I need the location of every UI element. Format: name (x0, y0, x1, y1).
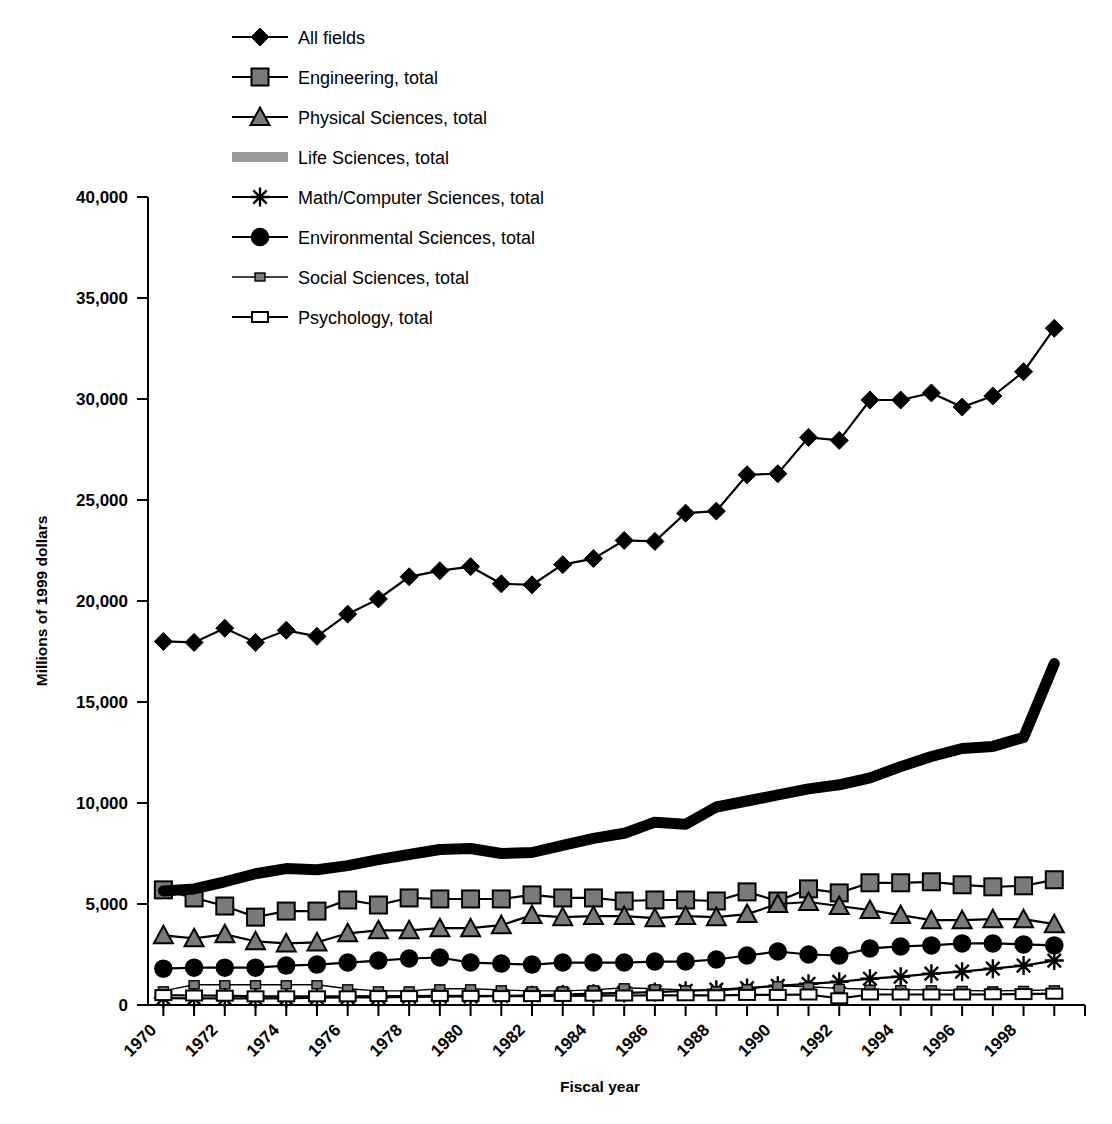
legend-item-7[interactable]: Psychology, total (232, 308, 433, 328)
marker-open-rect (524, 991, 540, 1001)
y-tick-label: 35,000 (76, 289, 128, 308)
marker-open-rect (555, 991, 571, 1001)
legend-label: Social Sciences, total (298, 268, 469, 288)
line-chart: 05,00010,00015,00020,00025,00030,00035,0… (0, 0, 1112, 1124)
marker-circle (708, 951, 725, 968)
marker-diamond (953, 398, 971, 416)
legend-label: Engineering, total (298, 68, 438, 88)
marker-square (278, 903, 295, 920)
marker-circle (247, 959, 264, 976)
legend-item-0[interactable]: All fields (232, 28, 365, 48)
marker-square (954, 876, 971, 893)
marker-small-square (251, 981, 261, 989)
marker-triangle (738, 905, 757, 923)
legend-item-1[interactable]: Engineering, total (232, 68, 438, 88)
marker-square (646, 891, 663, 908)
legend-item-3[interactable]: Life Sciences, total (232, 148, 449, 168)
marker-open-rect (155, 990, 171, 1000)
marker-square (252, 69, 269, 86)
marker-open-rect (370, 991, 386, 1001)
marker-circle (646, 953, 663, 970)
marker-diamond (492, 575, 510, 593)
legend-label: Physical Sciences, total (298, 108, 487, 128)
marker-diamond (216, 619, 234, 637)
series-7 (155, 989, 1062, 1004)
x-tick-label: 1990 (734, 1020, 774, 1060)
marker-open-rect (954, 989, 970, 999)
marker-circle (431, 949, 448, 966)
x-axis-title: Fiscal year (560, 1078, 640, 1095)
legend-item-4[interactable]: Math/Computer Sciences, total (232, 188, 544, 209)
marker-circle (401, 950, 418, 967)
marker-diamond (892, 391, 910, 409)
marker-diamond (247, 633, 265, 651)
marker-open-rect (309, 991, 325, 1001)
marker-open-rect (985, 989, 1001, 999)
legend-label: Math/Computer Sciences, total (298, 188, 544, 208)
marker-small-square (312, 981, 322, 989)
legend-item-2[interactable]: Physical Sciences, total (232, 108, 487, 129)
x-tick-label: 1978 (366, 1020, 406, 1060)
marker-square (308, 903, 325, 920)
marker-open-rect (770, 990, 786, 1000)
y-tick-label: 5,000 (85, 895, 128, 914)
marker-diamond (339, 605, 357, 623)
marker-open-rect (401, 991, 417, 1001)
marker-triangle (492, 916, 511, 934)
marker-circle (524, 956, 541, 973)
marker-circle (370, 952, 387, 969)
marker-open-rect (708, 990, 724, 1000)
marker-square (984, 878, 1001, 895)
marker-square (431, 890, 448, 907)
marker-circle (216, 959, 233, 976)
marker-diamond (584, 550, 602, 568)
marker-diamond (308, 627, 326, 645)
marker-square (462, 890, 479, 907)
marker-circle (155, 960, 172, 977)
series-band-line (163, 664, 1054, 891)
marker-small-square (189, 981, 199, 989)
x-tick-label: 1986 (612, 1020, 652, 1060)
marker-circle (462, 954, 479, 971)
marker-circle (739, 947, 756, 964)
marker-circle (585, 954, 602, 971)
legend-item-6[interactable]: Social Sciences, total (232, 268, 469, 288)
marker-square (923, 873, 940, 890)
legend-label: Environmental Sciences, total (298, 228, 535, 248)
marker-open-rect (217, 991, 233, 1001)
legend-label: Life Sciences, total (298, 148, 449, 168)
series-line (163, 880, 1054, 917)
marker-square (370, 897, 387, 914)
series-line (163, 902, 1054, 943)
series-0 (154, 319, 1063, 651)
marker-diamond (523, 576, 541, 594)
y-tick-label: 20,000 (76, 592, 128, 611)
marker-square (1046, 871, 1063, 888)
x-tick-label: 1980 (427, 1020, 467, 1060)
marker-diamond (154, 632, 172, 650)
marker-open-rect (340, 991, 356, 1001)
x-tick-label: 1994 (857, 1020, 898, 1061)
marker-open-rect (678, 990, 694, 1000)
marker-small-square (220, 981, 230, 989)
marker-square (861, 874, 878, 891)
y-tick-label: 40,000 (76, 188, 128, 207)
marker-diamond (554, 556, 572, 574)
marker-square (216, 898, 233, 915)
marker-circle (861, 940, 878, 957)
marker-square (401, 889, 418, 906)
marker-square (339, 891, 356, 908)
marker-asterisk (983, 959, 1002, 978)
legend-item-5[interactable]: Environmental Sciences, total (232, 228, 535, 248)
x-tick-label: 1970 (120, 1020, 160, 1060)
marker-circle (308, 956, 325, 973)
marker-open-rect (278, 991, 294, 1001)
marker-triangle (215, 925, 234, 943)
marker-diamond (861, 391, 879, 409)
marker-circle (1046, 937, 1063, 954)
marker-open-rect (647, 990, 663, 1000)
marker-circle (892, 938, 909, 955)
y-tick-label: 25,000 (76, 491, 128, 510)
marker-asterisk (891, 967, 910, 986)
series-line (163, 328, 1054, 642)
